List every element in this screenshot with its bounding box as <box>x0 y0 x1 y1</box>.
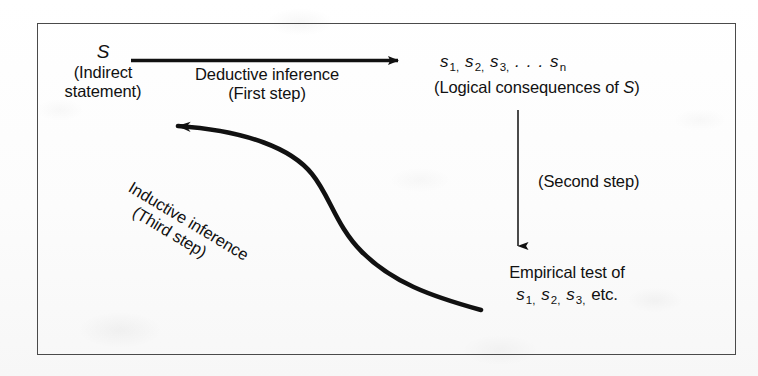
empirical-term-3: s <box>566 285 576 304</box>
consequences-caption-open: (Logical consequences of <box>434 78 623 96</box>
empirical-sub-1: 1, <box>526 295 536 307</box>
empirical-term-1: s <box>516 285 526 304</box>
consequence-term-3: s <box>490 52 500 71</box>
consequence-term-2: s <box>465 52 475 71</box>
consequence-ellipsis: . . . <box>515 52 544 71</box>
statement-caption-line-1: (Indirect <box>44 63 162 82</box>
empirical-test-sequence: s1, s2, s3, etc. <box>472 282 662 308</box>
deductive-inference-label: Deductive inference (First step) <box>152 65 382 104</box>
consequence-sub-2: 2, <box>475 61 485 73</box>
consequence-sub-n: n <box>560 61 566 73</box>
second-step-label: (Second step) <box>538 172 639 191</box>
statement-symbol: S <box>44 42 162 63</box>
deductive-label-line-1: Deductive inference <box>195 65 339 83</box>
consequence-sub-1: 1, <box>450 61 460 73</box>
empirical-sub-3: 3, <box>576 295 586 307</box>
consequence-term-n: s <box>550 52 560 71</box>
empirical-test-line-1: Empirical test of <box>509 263 625 281</box>
node-empirical-test: Empirical test of s1, s2, s3, etc. <box>472 263 662 308</box>
consequence-term-1: s <box>440 52 450 71</box>
figure-canvas: S (Indirect statement) Deductive inferen… <box>0 0 758 376</box>
node-logical-consequences: s1, s2, s3, . . . sn (Logical consequenc… <box>434 52 640 97</box>
empirical-trailing: etc. <box>591 285 618 304</box>
empirical-sub-2: 2, <box>551 295 561 307</box>
consequences-caption: (Logical consequences of S) <box>434 75 640 97</box>
empirical-term-2: s <box>541 285 551 304</box>
statement-caption-line-2: statement) <box>44 82 162 101</box>
node-indirect-statement: S (Indirect statement) <box>44 42 162 102</box>
consequences-caption-symbol: S <box>623 78 634 96</box>
consequence-sub-3: 3, <box>500 61 510 73</box>
deductive-label-line-2: (First step) <box>228 84 306 102</box>
inductive-arrow <box>178 126 481 310</box>
consequences-sequence: s1, s2, s3, . . . sn <box>434 52 640 75</box>
consequences-caption-close: ) <box>634 78 639 96</box>
